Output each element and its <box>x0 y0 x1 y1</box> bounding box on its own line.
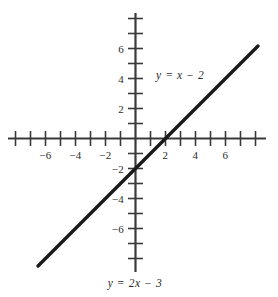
x-tick-label--6: −6 <box>39 149 52 161</box>
x-tick-label-2: 2 <box>163 149 169 161</box>
coordinate-plane-svg: −6 −4 −2 2 4 6 6 4 2 −2 −4 −6 y = x − 2 … <box>0 0 278 297</box>
x-tick-label-4: 4 <box>193 149 199 161</box>
y-tick-label--2: −2 <box>112 163 124 175</box>
equation-caption: y = 2x − 3 <box>107 277 163 290</box>
y-tick-label-4: 4 <box>118 73 124 85</box>
graph-figure: −6 −4 −2 2 4 6 6 4 2 −2 −4 −6 y = x − 2 … <box>0 0 278 297</box>
y-tick-label-2: 2 <box>118 103 124 115</box>
y-tick-label--6: −6 <box>112 223 125 235</box>
y-tick-label-6: 6 <box>118 43 124 55</box>
x-tick-label--2: −2 <box>99 149 111 161</box>
x-tick-label--4: −4 <box>69 149 82 161</box>
y-tick-label--4: −4 <box>112 193 125 205</box>
x-tick-label-6: 6 <box>223 149 229 161</box>
equation-label-inline: y = x − 2 <box>155 69 204 82</box>
